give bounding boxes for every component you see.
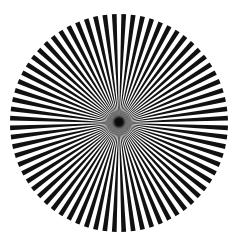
siemens-star (0, 0, 240, 246)
center-dot (114, 117, 125, 128)
center-convergence (107, 111, 131, 135)
